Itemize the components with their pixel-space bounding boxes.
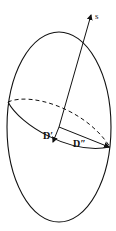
axis-s-arrow <box>59 15 91 127</box>
axis-s-label: s <box>95 11 99 21</box>
d-double-prime-label: D″ <box>73 138 86 149</box>
ellipsoid-diagram: s D′ D″ <box>0 0 116 231</box>
cross-section-back-dashed <box>8 99 110 147</box>
d-prime-label: D′ <box>43 130 53 141</box>
